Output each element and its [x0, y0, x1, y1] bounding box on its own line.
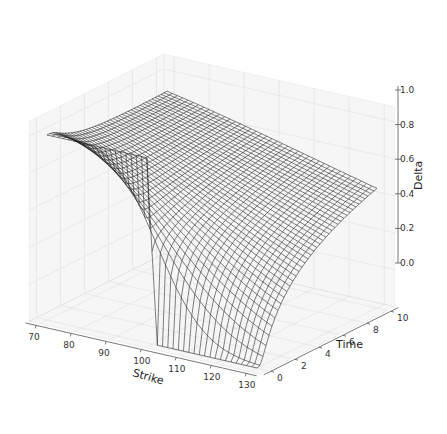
- z-tick-label: 0.8: [400, 120, 415, 130]
- z-axis-label: Delta: [412, 161, 425, 190]
- x-tick-label: 70: [28, 332, 40, 342]
- y-axis-label: Time: [335, 338, 363, 351]
- x-tick: [70, 333, 71, 336]
- y-tick: [319, 347, 322, 348]
- x-axis-label: Strike: [131, 366, 165, 387]
- y-tick: [367, 323, 370, 324]
- x-tick-label: 90: [98, 348, 110, 358]
- y-tick-label: 10: [397, 313, 409, 323]
- x-tick-label: 120: [203, 372, 220, 382]
- x-tick: [105, 341, 106, 344]
- axis-panes: [29, 54, 394, 374]
- x-tick: [210, 365, 211, 368]
- y-tick: [343, 335, 346, 336]
- y-tick-label: 0: [277, 373, 283, 383]
- y-tick: [391, 311, 394, 312]
- z-tick-label: 0.2: [400, 223, 414, 233]
- x-tick-label: 110: [168, 364, 185, 374]
- x-tick-label: 80: [63, 340, 75, 350]
- z-tick-label: 1.0: [400, 85, 415, 95]
- y-tick-label: 2: [301, 361, 307, 371]
- x-tick: [35, 325, 36, 328]
- x-tick-label: 130: [238, 380, 255, 390]
- x-tick: [245, 373, 246, 376]
- y-tick: [271, 371, 274, 372]
- x-tick-label: 100: [133, 356, 150, 366]
- z-tick-label: 0.0: [400, 258, 415, 268]
- x-tick: [175, 357, 176, 360]
- y-tick: [295, 359, 298, 360]
- x-tick: [140, 349, 141, 352]
- y-tick-label: 4: [325, 349, 331, 359]
- y-tick-label: 8: [373, 325, 379, 335]
- delta-surface-chart: 70809010011012013002468100.00.20.40.60.8…: [0, 0, 447, 434]
